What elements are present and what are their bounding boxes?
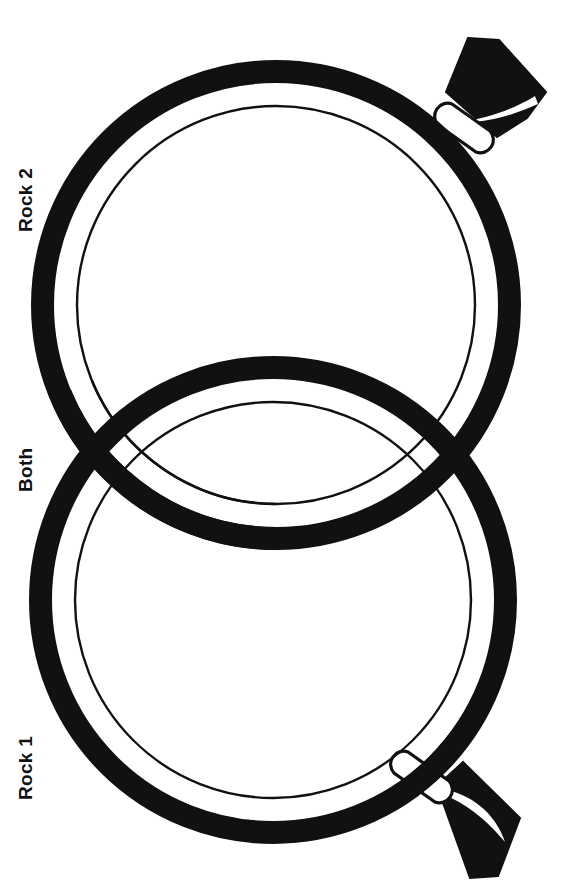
venn-diagram (0, 0, 572, 889)
worksheet-page: Rock 2 Both Rock 1 (0, 0, 572, 889)
label-rock2: Rock 2 (16, 168, 35, 232)
label-rock1: Rock 1 (16, 736, 35, 800)
label-both: Both (16, 448, 35, 492)
